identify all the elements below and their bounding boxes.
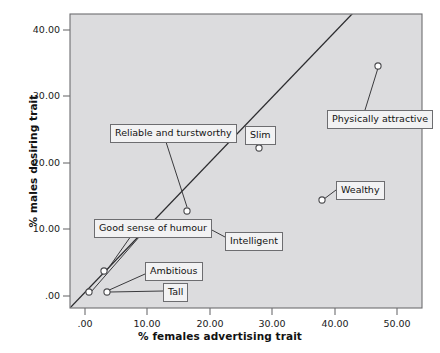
x-axis-ticks xyxy=(85,308,397,315)
callout-physically-attractive[interactable]: Physically attractive xyxy=(327,110,433,129)
callout-tall[interactable]: Tall xyxy=(163,283,188,302)
callout-wealthy[interactable]: Wealthy xyxy=(336,181,385,200)
callout-slim[interactable]: Slim xyxy=(245,126,276,145)
plot-panel-background xyxy=(70,14,422,308)
x-tick-label-0: .00 xyxy=(55,318,115,329)
x-tick-label-50: 50.00 xyxy=(367,318,427,329)
marker-ambitious xyxy=(86,289,92,295)
y-tick-label-0: .00 xyxy=(10,290,60,301)
x-tick-label-30: 30.00 xyxy=(242,318,302,329)
marker-good-sense-of-humour xyxy=(101,268,107,274)
y-axis-title: % males desiring trait xyxy=(27,61,39,261)
plot-canvas xyxy=(0,0,440,353)
marker-wealthy xyxy=(319,197,325,203)
marker-tall xyxy=(104,289,110,295)
x-tick-label-10: 10.00 xyxy=(117,318,177,329)
x-axis-title: % females advertising trait xyxy=(0,330,440,342)
x-tick-label-20: 20.00 xyxy=(180,318,240,329)
marker-physically-attractive xyxy=(375,63,381,69)
callout-good-sense-of-humour[interactable]: Good sense of humour xyxy=(94,219,212,238)
marker-reliable xyxy=(184,208,190,214)
callout-reliable-and-trustworthy[interactable]: Reliable and turstworthy xyxy=(110,124,237,143)
x-tick-label-40: 40.00 xyxy=(305,318,365,329)
callout-ambitious[interactable]: Ambitious xyxy=(145,262,203,281)
marker-slim xyxy=(256,145,262,151)
scatter-chart: 40.00 30.00 20.00 10.00 .00 .00 10.00 20… xyxy=(0,0,440,353)
y-axis-ticks xyxy=(63,30,70,296)
y-tick-label-40: 40.00 xyxy=(10,24,60,35)
callout-intelligent[interactable]: Intelligent xyxy=(225,232,283,251)
